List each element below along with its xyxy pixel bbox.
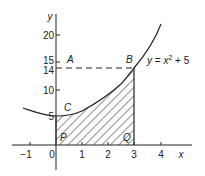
svg-text:1: 1 — [79, 149, 85, 160]
point-label-c: C — [64, 102, 72, 113]
x-tick-labels: −1 0 1 2 3 4 x — [20, 149, 184, 160]
svg-text:2: 2 — [105, 149, 111, 160]
svg-text:14: 14 — [43, 65, 55, 76]
svg-text:x: x — [178, 149, 185, 160]
svg-text:5: 5 — [48, 111, 54, 122]
point-label-b: B — [126, 54, 133, 65]
svg-text:0: 0 — [49, 149, 55, 160]
point-label-p: P — [60, 132, 67, 143]
svg-text:y: y — [47, 11, 54, 22]
curve-equation-label: y = x2 + 5 — [146, 54, 190, 66]
graph: −1 0 1 2 3 4 x 5 10 14 15 20 y A B C P Q… — [0, 0, 205, 176]
point-label-a: A — [66, 54, 74, 65]
point-label-q: Q — [123, 132, 131, 143]
y-tick-labels: 5 10 14 15 20 y — [43, 11, 55, 122]
svg-text:−1: −1 — [20, 149, 32, 160]
svg-text:15: 15 — [43, 55, 55, 66]
svg-text:4: 4 — [158, 149, 164, 160]
svg-text:20: 20 — [43, 30, 55, 41]
y-axis — [56, 14, 60, 170]
svg-text:10: 10 — [43, 85, 55, 96]
svg-text:3: 3 — [131, 149, 137, 160]
